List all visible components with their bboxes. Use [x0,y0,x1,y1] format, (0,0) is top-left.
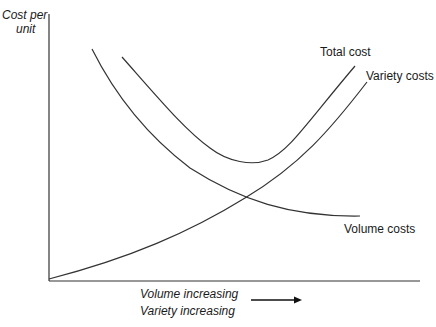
x-axis-label-line1: Volume increasing [140,287,238,301]
total-cost-label: Total cost [320,45,371,59]
y-axis-label-line2: unit [16,22,35,36]
x-axis-label-line2: Variety increasing [140,304,235,318]
volume-costs-curve [92,49,360,216]
volume-costs-label: Volume costs [344,222,415,236]
variety-costs-curve [49,82,367,279]
total-cost-curve [122,57,355,163]
y-axis-label-line1: Cost per [2,8,47,22]
direction-arrow-head [294,297,302,304]
variety-costs-label: Variety costs [366,69,434,83]
